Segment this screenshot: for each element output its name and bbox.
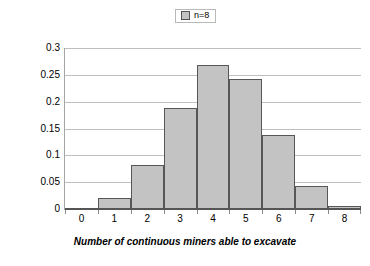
x-axis-tick-labels: 012345678 [65,212,361,228]
y-axis-tick-label: 0.3 [26,43,60,53]
bar-cell [295,48,328,209]
bar-cell [328,48,361,209]
x-axis-tick-label: 4 [197,212,230,228]
y-axis-tick-label: 0 [26,204,60,214]
x-axis-tick-label: 2 [131,212,164,228]
legend-item-label: n=8 [194,11,209,20]
x-axis-tick-label: 6 [262,212,295,228]
legend-swatch-icon [181,11,190,20]
bar-cell [197,48,230,209]
bar[interactable] [131,165,164,209]
bar-cell [164,48,197,209]
bar[interactable] [164,108,197,209]
bar[interactable] [295,186,328,209]
bar-cell [65,48,98,209]
bar[interactable] [197,65,230,209]
x-axis-tick-label: 3 [164,212,197,228]
chart-legend[interactable]: n=8 [175,9,216,23]
bar[interactable] [262,135,295,209]
bar[interactable] [229,79,262,209]
y-axis-tick-label: 0.25 [26,70,60,80]
y-axis-tick-label: 0.2 [26,97,60,107]
plot-area [65,48,361,209]
x-axis-tick-label: 1 [98,212,131,228]
bar-cell [98,48,131,209]
y-axis-tick-label: 0.1 [26,150,60,160]
x-axis-tick-label: 0 [65,212,98,228]
x-axis-tick-label: 5 [229,212,262,228]
bar-cell [229,48,262,209]
x-axis-title: Number of continuous miners able to exca… [0,236,370,247]
x-axis-tick-label: 7 [295,212,328,228]
histogram-chart: n=8 Probability 00.050.10.150.20.250.3 0… [0,0,370,266]
bar-cell [131,48,164,209]
bar-cell [262,48,295,209]
x-axis-tick-label: 8 [328,212,361,228]
y-axis-tick-label: 0.05 [26,177,60,187]
y-axis-tick-label: 0.15 [26,124,60,134]
bar-series [65,48,361,209]
y-axis-tick-labels: 00.050.10.150.20.250.3 [26,48,60,209]
